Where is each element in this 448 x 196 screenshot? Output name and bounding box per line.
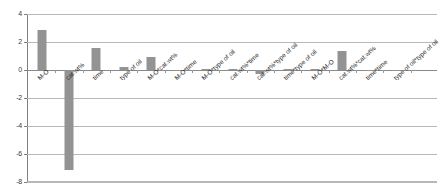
bar[interactable] [119,67,128,70]
bar-slot [28,14,55,182]
bar[interactable] [283,69,292,70]
bar[interactable] [174,70,183,71]
y-tick-label: 0 [0,66,22,73]
bar-slot [137,14,164,182]
bar-slot [329,14,356,182]
bar-slot [356,14,383,182]
bar-slot [219,14,246,182]
gridline--8 [27,182,437,183]
y-tick-mark [24,98,27,99]
bar-slot [110,14,137,182]
bar[interactable] [64,70,73,170]
bar-slot [247,14,274,182]
bar[interactable] [228,69,237,70]
bar[interactable] [310,69,319,70]
bar[interactable] [146,57,155,70]
bar[interactable] [338,51,347,70]
bar[interactable] [201,69,210,70]
bar[interactable] [256,70,265,74]
y-tick-label: 4 [0,10,22,17]
y-tick-mark [24,126,27,127]
y-tick-label: 2 [0,38,22,45]
bar-slot [274,14,301,182]
y-tick-mark [24,42,27,43]
bar[interactable] [37,30,46,70]
y-tick-label: -8 [0,178,22,185]
y-tick-label: -2 [0,94,22,101]
bar-slot [83,14,110,182]
bar-slot [192,14,219,182]
bar-slot [301,14,328,182]
bar[interactable] [92,48,101,70]
bars-container [28,14,437,182]
y-tick-mark [24,14,27,15]
bar-slot [165,14,192,182]
bar[interactable] [365,70,374,71]
y-tick-mark [24,154,27,155]
bar[interactable] [392,70,401,71]
y-tick-label: -4 [0,122,22,129]
bar-chart: 420-2-4-6-8 M-Ocat.wt%timetype of oilM-O… [0,0,448,196]
bar-slot [383,14,410,182]
y-tick-label: -6 [0,150,22,157]
y-tick-mark [24,70,27,71]
y-tick-mark [24,182,27,183]
x-tick-mark [411,70,412,73]
bar-slot [55,14,82,182]
